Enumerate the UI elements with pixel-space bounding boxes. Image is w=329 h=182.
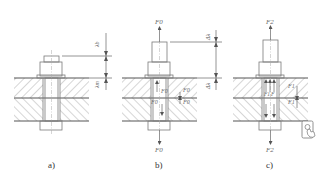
- lower-plate-left: [14, 98, 43, 121]
- label-F0-bolt-a: F0: [160, 88, 168, 94]
- label-F2-top: F2: [265, 18, 274, 26]
- label-F0-bolt-b: F0: [150, 99, 158, 105]
- upper-plate-right: [60, 78, 89, 98]
- bolt-head: [259, 121, 281, 130]
- caption-c: c): [266, 160, 273, 170]
- nut: [40, 62, 62, 76]
- label-F0-member-upper: F0: [182, 87, 190, 93]
- bolted-joint-diagram: λb λm a) F0 F0 F0 F0 F0 F0: [0, 0, 329, 182]
- lower-plate-left: [233, 98, 262, 121]
- bolt-head: [148, 121, 170, 130]
- upper-plate-left: [122, 78, 151, 98]
- panel-a: λb λm a): [14, 33, 112, 170]
- label-F-bolt: F: [270, 91, 275, 97]
- bolt-end: [263, 40, 278, 62]
- touch-screen-icon[interactable]: [302, 121, 315, 138]
- label-F1-member-lower: F1: [287, 99, 295, 105]
- label-delta-lambda-bottom: Δλ: [205, 82, 211, 90]
- label-F0-member-lower: F0: [182, 99, 190, 105]
- upper-plate-left: [14, 78, 43, 98]
- label-delta-lambda-top: Δλ: [205, 33, 211, 41]
- label-lambda-m: λm: [94, 80, 100, 89]
- nut: [259, 62, 281, 76]
- bolt-head: [40, 121, 62, 130]
- panel-c: F2 F2 F1 F F1 F1 c): [233, 18, 308, 170]
- label-F0-top: F0: [154, 18, 163, 26]
- label-F2-bottom: F2: [265, 146, 274, 154]
- label-lambda-b: λb: [94, 41, 100, 48]
- lower-plate-right: [60, 98, 89, 121]
- nut: [148, 62, 170, 76]
- label-F1-bolt: F1: [263, 91, 270, 97]
- panel-b: F0 F0 F0 F0 F0 F0 Δλ Δλ b): [122, 18, 222, 170]
- caption-b: b): [155, 160, 163, 170]
- label-F1-member-upper: F1: [287, 83, 295, 89]
- label-F0-bottom: F0: [154, 146, 163, 154]
- caption-a: a): [48, 160, 55, 170]
- lower-plate-left: [122, 98, 151, 121]
- upper-plate-left: [233, 78, 262, 98]
